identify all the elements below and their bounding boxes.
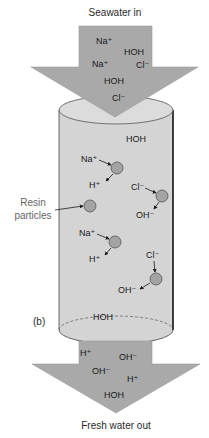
ion-label: Na⁺ bbox=[96, 36, 113, 46]
ion-label: HOH bbox=[104, 76, 124, 86]
resin-particle bbox=[111, 162, 123, 174]
outlet-label: Fresh water out bbox=[81, 420, 151, 431]
resin-particle-free bbox=[84, 200, 96, 212]
ion-label: Na⁺ bbox=[92, 59, 109, 69]
resin-particle bbox=[150, 273, 162, 285]
ion-label: OH⁻ bbox=[119, 352, 138, 362]
ion-label: Cl⁻ bbox=[112, 93, 125, 103]
ion-out-label: H⁺ bbox=[89, 254, 100, 264]
ion-out-label: H⁺ bbox=[89, 180, 100, 190]
ion-label: Cl⁻ bbox=[136, 60, 149, 70]
column-body bbox=[59, 110, 173, 344]
panel-label: (b) bbox=[33, 316, 45, 327]
inlet-arrow bbox=[31, 26, 198, 117]
outlet-arrow bbox=[32, 341, 200, 413]
ion-exchange-diagram: Seawater in Na⁺ HOH Na⁺ Cl⁻ HOH Cl⁻ HOH … bbox=[0, 0, 209, 438]
ion-out-label: OH⁻ bbox=[118, 285, 137, 295]
ion-in-label: Na⁺ bbox=[79, 228, 96, 238]
ion-label: OH⁻ bbox=[92, 366, 111, 376]
resin-label-line1: Resin bbox=[20, 197, 46, 208]
resin-label-line2: particles bbox=[14, 210, 51, 221]
ion-in-label: Na⁺ bbox=[81, 154, 98, 164]
inlet-label: Seawater in bbox=[89, 7, 142, 18]
resin-particle bbox=[156, 190, 168, 202]
ion-label: H⁺ bbox=[127, 374, 138, 384]
ion-in-label: Cl⁻ bbox=[131, 182, 144, 192]
water-label: HOH bbox=[93, 312, 113, 322]
water-label: HOH bbox=[126, 134, 146, 144]
ion-label: HOH bbox=[104, 390, 124, 400]
ion-in-label: Cl⁻ bbox=[146, 250, 159, 260]
ion-label: H⁺ bbox=[80, 348, 91, 358]
ion-out-label: OH⁻ bbox=[136, 210, 155, 220]
ion-exchange-column bbox=[59, 96, 173, 344]
resin-particle bbox=[109, 236, 121, 248]
ion-label: HOH bbox=[124, 47, 144, 57]
